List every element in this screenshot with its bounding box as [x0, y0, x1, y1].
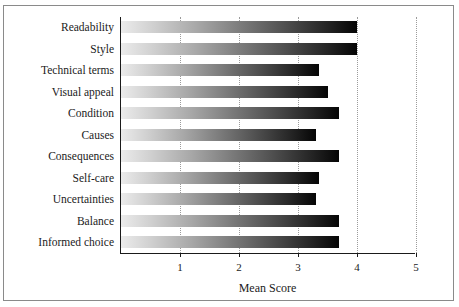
gridline-5 [416, 17, 417, 253]
bar-row [121, 211, 415, 233]
category-label: Informed choice [38, 237, 114, 249]
bar [121, 129, 316, 141]
bar-row [121, 189, 415, 211]
bar-row [121, 146, 415, 168]
x-axis-title: Mean Score [120, 282, 415, 294]
bar [121, 193, 316, 205]
plot-area: 12345 [120, 17, 415, 254]
category-label: Self-care [73, 173, 115, 185]
bar-row [121, 103, 415, 125]
category-label: Technical terms [41, 65, 114, 77]
category-label: Condition [68, 108, 114, 120]
x-tick-label-4: 4 [354, 262, 360, 273]
category-label: Readability [61, 22, 114, 34]
bar [121, 21, 357, 33]
bar [121, 150, 339, 162]
bar-row [121, 17, 415, 39]
category-label: Uncertainties [53, 194, 114, 206]
category-label: Visual appeal [52, 87, 114, 99]
bar [121, 43, 357, 55]
bar [121, 107, 339, 119]
category-label: Style [90, 44, 114, 56]
x-tick-label-1: 1 [177, 262, 183, 273]
bar [121, 86, 328, 98]
x-tick-mark-5 [416, 253, 417, 257]
bar-row [121, 168, 415, 190]
bar [121, 236, 339, 248]
bar [121, 215, 339, 227]
bar [121, 64, 319, 76]
category-label: Causes [81, 130, 114, 142]
x-tick-label-3: 3 [295, 262, 301, 273]
bar-row [121, 60, 415, 82]
bar-row [121, 39, 415, 61]
bar-row [121, 82, 415, 104]
bar [121, 172, 319, 184]
x-tick-label-2: 2 [236, 262, 242, 273]
chart-figure: ReadabilityStyleTechnical termsVisual ap… [3, 5, 454, 301]
category-label: Consequences [48, 151, 114, 163]
category-label: Balance [77, 216, 114, 228]
bar-row [121, 232, 415, 254]
x-tick-label-5: 5 [413, 262, 419, 273]
category-axis-labels: ReadabilityStyleTechnical termsVisual ap… [4, 17, 114, 254]
bar-row [121, 125, 415, 147]
